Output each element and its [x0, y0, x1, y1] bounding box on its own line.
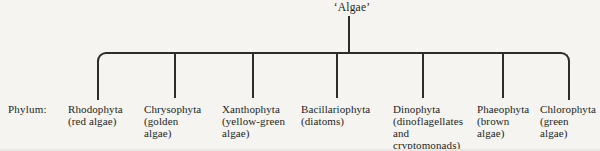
phylum-label-phaeophyta: Phaeophyta (brown algae): [477, 103, 529, 139]
phylum-name: Phaeophyta: [477, 103, 529, 115]
phylum-name: Dinophyta: [393, 103, 463, 115]
phylum-common-name: algae): [144, 127, 201, 139]
phylum-common-name: (golden: [144, 115, 201, 127]
phylum-name: Xanthophyta: [222, 103, 285, 115]
branch-line-dinophyta: [422, 53, 424, 98]
phylum-name: Bacillariophyta: [301, 103, 370, 115]
root-stem-line: [348, 16, 350, 52]
phylum-common-name: (green: [540, 115, 596, 127]
phylum-row-label: Phylum:: [8, 103, 47, 115]
branch-line-xanthophyta: [252, 53, 254, 98]
phylum-label-rhodophyta: Rhodophyta (red algae): [68, 103, 123, 127]
phylum-label-xanthophyta: Xanthophyta (yellow-green algae): [222, 103, 285, 139]
phylum-name: Rhodophyta: [68, 103, 123, 115]
tree-bracket-line: [97, 52, 570, 100]
phylum-common-name: (diatoms): [301, 115, 370, 127]
branch-line-bacillariophyta: [336, 53, 338, 98]
phylum-common-name: algae): [477, 127, 529, 139]
phylum-label-chrysophyta: Chrysophyta (golden algae): [144, 103, 201, 139]
phylum-common-name: algae): [540, 127, 596, 139]
scan-edge-shading: [0, 149, 600, 151]
phylum-common-name: (yellow-green: [222, 115, 285, 127]
root-node-label: ‘Algae’: [326, 1, 378, 13]
phylum-common-name: (brown: [477, 115, 529, 127]
branch-line-phaeophyta: [502, 53, 504, 98]
phylum-label-chlorophyta: Chlorophyta (green algae): [540, 103, 596, 139]
phylum-common-name: (red algae): [68, 115, 123, 127]
phylum-label-bacillariophyta: Bacillariophyta (diatoms): [301, 103, 370, 127]
phylum-label-dinophyta: Dinophyta (dinoflagellates and cryptomon…: [393, 103, 463, 151]
algae-taxonomy-diagram: ‘Algae’ Phylum: Rhodophyta (red algae) C…: [0, 0, 600, 151]
branch-line-chrysophyta: [174, 53, 176, 98]
phylum-common-name: (dinoflagellates: [393, 115, 463, 127]
phylum-name: Chlorophyta: [540, 103, 596, 115]
phylum-common-name: algae): [222, 127, 285, 139]
phylum-name: Chrysophyta: [144, 103, 201, 115]
phylum-common-name: and: [393, 127, 463, 139]
